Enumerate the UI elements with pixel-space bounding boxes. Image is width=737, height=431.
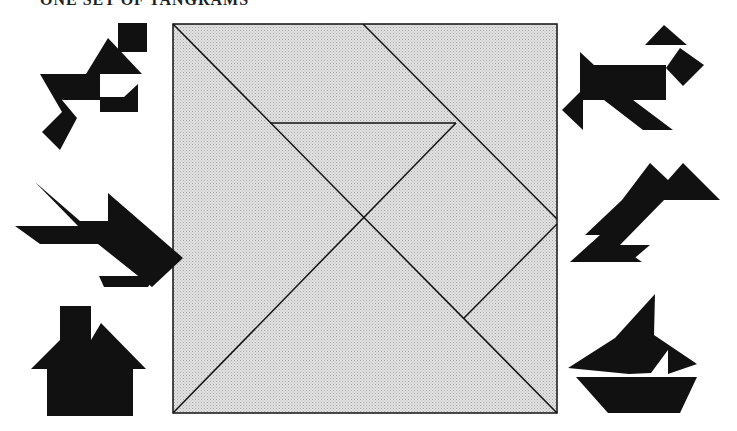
tangram-square bbox=[173, 24, 557, 413]
silhouette-dog bbox=[562, 25, 704, 130]
silhouette-house bbox=[31, 306, 146, 416]
silhouette-fish bbox=[15, 182, 183, 287]
silhouette-sailboat bbox=[568, 294, 697, 413]
silhouette-running-man bbox=[40, 23, 147, 150]
silhouette-bird bbox=[570, 163, 720, 262]
